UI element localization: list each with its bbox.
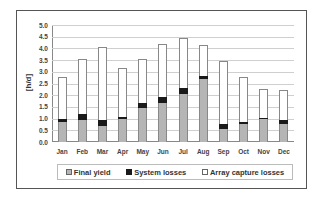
- final-yield-segment: [98, 126, 107, 142]
- y-tick-label: 4.5: [22, 33, 48, 40]
- legend-label: Array capture losses: [210, 168, 284, 177]
- final-yield-segment: [138, 108, 147, 142]
- gridline: [52, 107, 294, 108]
- gridline: [52, 130, 294, 131]
- y-tick-label: 3.5: [22, 57, 48, 64]
- y-tick-label: 0.5: [22, 127, 48, 134]
- array-capture-losses-segment: [78, 59, 87, 114]
- legend-item-array-capture-losses: Array capture losses: [202, 168, 284, 177]
- y-tick-label: 2.5: [22, 80, 48, 87]
- bar-jun: [158, 44, 167, 142]
- gridline: [52, 72, 294, 73]
- bar-oct: [239, 77, 248, 142]
- final-yield-segment: [199, 79, 208, 142]
- y-tick-label: 1.5: [22, 103, 48, 110]
- final-yield-segment: [179, 94, 188, 142]
- system-losses-swatch-icon: [126, 169, 132, 175]
- bar-may: [138, 59, 147, 142]
- final-yield-segment: [219, 129, 228, 142]
- legend-item-system-losses: System losses: [126, 168, 186, 177]
- final-yield-segment: [118, 119, 127, 142]
- array-capture-losses-segment: [118, 68, 127, 117]
- gridline: [52, 60, 294, 61]
- y-tick-label: 1.0: [22, 115, 48, 122]
- bar-sep: [219, 61, 228, 142]
- y-tick-label: 3.0: [22, 68, 48, 75]
- bar-nov: [259, 89, 268, 142]
- x-tick-label: Dec: [272, 148, 296, 155]
- y-tick-label: 2.0: [22, 92, 48, 99]
- plot-area: [52, 25, 294, 142]
- array-capture-losses-segment: [199, 45, 208, 75]
- array-capture-losses-segment: [239, 77, 248, 121]
- final-yield-segment: [279, 124, 288, 142]
- gridline: [52, 95, 294, 96]
- bar-mar: [98, 47, 107, 142]
- bar-feb: [78, 59, 87, 142]
- legend: Final yield System losses Array capture …: [57, 164, 293, 180]
- bar-dec: [279, 90, 288, 142]
- array-capture-losses-segment: [158, 44, 167, 97]
- array-capture-losses-segment: [138, 59, 147, 103]
- array-capture-losses-segment: [58, 77, 67, 119]
- gridline: [52, 119, 294, 120]
- array-capture-losses-segment: [259, 89, 268, 118]
- array-capture-losses-segment: [219, 61, 228, 124]
- array-capture-losses-segment: [279, 90, 288, 120]
- final-yield-segment: [158, 103, 167, 142]
- final-yield-swatch-icon: [66, 169, 72, 175]
- array-capture-losses-segment: [98, 47, 107, 120]
- bar-jul: [179, 38, 188, 142]
- final-yield-segment: [259, 119, 268, 142]
- y-tick-label: 0.0: [22, 139, 48, 146]
- bar-apr: [118, 68, 127, 142]
- legend-label: System losses: [134, 168, 186, 177]
- x-axis-line: [52, 141, 294, 142]
- array-capture-losses-swatch-icon: [202, 169, 208, 175]
- gridline: [52, 25, 294, 26]
- gridline: [52, 48, 294, 49]
- final-yield-segment: [239, 124, 248, 142]
- y-tick-label: 4.0: [22, 45, 48, 52]
- gridline: [52, 37, 294, 38]
- legend-label: Final yield: [74, 168, 111, 177]
- final-yield-segment: [58, 122, 67, 142]
- y-tick-label: 5.0: [22, 22, 48, 29]
- legend-item-final-yield: Final yield: [66, 168, 111, 177]
- array-capture-losses-segment: [179, 38, 188, 88]
- bar-jan: [58, 77, 67, 142]
- bar-aug: [199, 45, 208, 142]
- gridline: [52, 84, 294, 85]
- final-yield-segment: [78, 120, 87, 142]
